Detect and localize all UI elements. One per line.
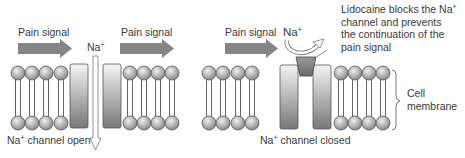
pain-signal-arrow-left-1: [18, 39, 72, 58]
membrane-label-line-2: membrane: [407, 100, 457, 113]
ion-charge: +: [100, 41, 104, 48]
ion-charge: +: [298, 26, 302, 33]
phospholipid-group-left-b: [123, 66, 179, 130]
phospholipid-group-left-a: [11, 66, 68, 130]
cell-membrane-label: Cell membrane: [407, 87, 457, 112]
ion-symbol: Na: [87, 41, 100, 53]
sodium-ion-label-right: Na+: [283, 26, 302, 38]
pain-signal-arrow-left-2: [120, 39, 174, 58]
caption-text: channel open: [25, 134, 91, 146]
sodium-flow-arrow-icon: [90, 56, 101, 150]
caption-text: channel closed: [278, 134, 351, 146]
caption-ion: Na: [7, 134, 20, 146]
caption-channel-open: Na+ channel open: [7, 134, 91, 146]
pain-signal-text: Pain signal: [18, 26, 69, 38]
phospholipid-group-right-a: [202, 66, 259, 130]
annotation-line-2: channel and prevents: [341, 16, 457, 29]
annotation-line-3: the continuation of the: [341, 28, 457, 41]
pain-signal-label-left-1: Pain signal: [18, 26, 69, 38]
pain-signal-text: Pain signal: [225, 26, 276, 38]
pain-signal-label-right: Pain signal: [225, 26, 276, 38]
annotation-leader-line: [312, 50, 327, 60]
annotation-line-1: Lidocaine blocks the Na+: [341, 3, 457, 16]
deflection-arrow-icon: [287, 39, 324, 53]
annotation-line-4: pain signal: [341, 41, 457, 54]
phospholipid-group-right-b: [334, 66, 390, 130]
caption-channel-closed: Na+ channel closed: [260, 134, 351, 146]
ion-symbol: Na: [283, 26, 298, 38]
pain-signal-arrow-right: [225, 39, 278, 58]
pain-signal-text: Pain signal: [121, 26, 172, 38]
membrane-label-line-1: Cell: [407, 87, 457, 100]
annotation-text: Lidocaine blocks the Na: [341, 3, 453, 15]
annotation-charge: +: [453, 3, 457, 10]
lidocaine-plug: [296, 57, 316, 76]
lidocaine-annotation: Lidocaine blocks the Na+ channel and pre…: [341, 3, 457, 53]
sodium-ion-label-left: Na+: [87, 41, 105, 53]
pain-signal-label-left-2: Pain signal: [121, 26, 172, 38]
membrane-brace: [392, 70, 400, 130]
caption-ion: Na: [260, 134, 273, 146]
